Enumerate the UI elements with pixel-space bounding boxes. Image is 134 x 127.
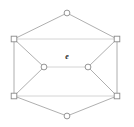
graph-edge-top-upper-right [67,13,117,39]
graph-canvas: e [0,0,134,127]
graph-node-center-left [41,64,47,70]
nodes-layer [11,10,120,119]
labels-layer: e [65,52,69,61]
graph-edge-upper-left-center-left [14,39,44,67]
graph-edge-center-left-lower-left [14,67,44,96]
graph-node-center-right [85,64,91,70]
graph-node-lower-right [114,93,120,99]
edges-layer [14,13,117,116]
graph-node-top [64,10,70,16]
graph-edge-upper-right-center-right [88,39,117,67]
graph-edge-center-right-lower-right [88,67,117,96]
graph-node-upper-left [11,36,17,42]
graph-edge-top-upper-left [14,13,67,39]
graph-edge-lower-left-bottom [14,96,67,116]
graph-node-lower-left [11,93,17,99]
graph-edge-lower-right-bottom [67,96,117,116]
graph-figure: e [0,0,134,127]
edge-label-e: e [65,52,69,61]
graph-node-upper-right [114,36,120,42]
graph-node-bottom [64,113,70,119]
